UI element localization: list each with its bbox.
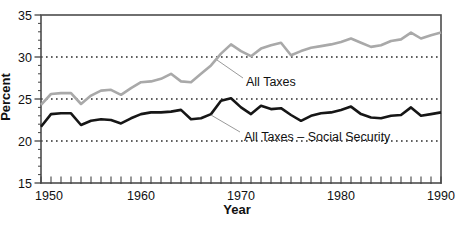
series-line-all-taxes-minus-social-security — [41, 98, 441, 127]
y-tick-label-15: 15 — [18, 177, 32, 191]
y-tick-label-30: 30 — [18, 51, 32, 65]
y-axis-title: Percent — [0, 72, 13, 120]
generated-plot-elements: 152025303519501960197019801990 — [18, 9, 455, 204]
x-tick-label-1990: 1990 — [427, 189, 455, 203]
plot-svg: 152025303519501960197019801990 Percent Y… — [0, 0, 462, 226]
x-tick-label-1950: 1950 — [35, 189, 63, 203]
tax-percent-line-chart: 152025303519501960197019801990 Percent Y… — [0, 0, 462, 226]
x-tick-label-1960: 1960 — [127, 189, 155, 203]
series-line-all-taxes — [41, 33, 441, 105]
y-tick-label-35: 35 — [18, 9, 32, 23]
x-tick-label-1980: 1980 — [327, 189, 355, 203]
y-tick-label-25: 25 — [18, 93, 32, 107]
y-tick-label-20: 20 — [18, 135, 32, 149]
series-label-all-taxes: All Taxes — [246, 75, 296, 89]
x-axis-title: Year — [223, 202, 250, 217]
series-label-all-taxes-minus-social-security: All Taxes – Social Security — [244, 130, 391, 144]
leader-line-all-taxes — [217, 60, 243, 78]
leader-line-all-taxes-minus-social-security — [211, 115, 240, 132]
x-tick-label-1970: 1970 — [227, 189, 255, 203]
